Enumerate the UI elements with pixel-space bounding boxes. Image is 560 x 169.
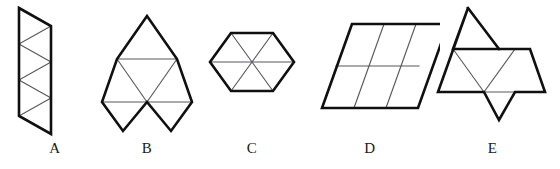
shape-label-c: C bbox=[192, 140, 312, 157]
shape-group-e: E bbox=[425, 0, 560, 169]
shape-c-drawing bbox=[192, 0, 312, 140]
shape-e-outline bbox=[438, 8, 545, 120]
shape-group-c: C bbox=[192, 0, 312, 169]
shape-label-d: D bbox=[300, 140, 440, 157]
shape-b-outline bbox=[102, 16, 192, 131]
shape-a-interior-lines bbox=[19, 26, 51, 116]
polyiamond-figure-panel: A B C bbox=[0, 0, 560, 169]
shape-c-interior-lines bbox=[210, 33, 294, 91]
shape-e-drawing bbox=[425, 0, 560, 140]
shape-d-drawing bbox=[300, 0, 440, 140]
shape-label-e: E bbox=[425, 140, 560, 157]
shape-group-d: D bbox=[300, 0, 440, 169]
shape-e-outline-apex bbox=[468, 8, 499, 49]
